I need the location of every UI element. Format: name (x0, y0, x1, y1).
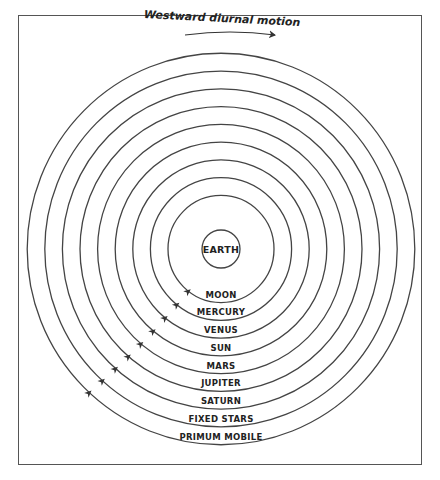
sphere-label-mercury: MERCURY (197, 307, 246, 317)
sphere-label-primum-mobile: PRIMUM MOBILE (179, 432, 262, 442)
diurnal-motion-arrow-icon (185, 32, 275, 35)
sphere-label-saturn: SATURN (201, 396, 241, 406)
celestial-spheres-diagram: Westward diurnal motion MOONMERCURYVENUS… (0, 0, 440, 480)
sphere-label-jupiter: JUPITER (200, 378, 241, 388)
sphere-label-fixed-stars: FIXED STARS (188, 414, 253, 424)
sphere-label-venus: VENUS (204, 325, 238, 335)
sphere-label-sun: SUN (210, 343, 231, 353)
diagram-title: Westward diurnal motion (144, 8, 301, 29)
sphere-label-mars: MARS (207, 361, 236, 371)
sphere-label-moon: MOON (205, 290, 236, 300)
label-group: MOONMERCURYVENUSSUNMARSJUPITERSATURNFIXE… (179, 290, 262, 442)
earth-label: EARTH (203, 244, 240, 255)
